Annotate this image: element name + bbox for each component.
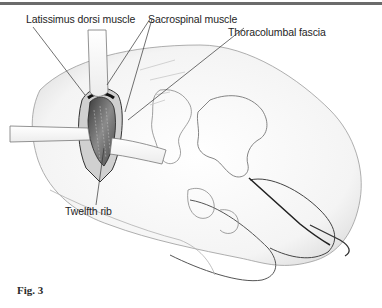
label-twelfth-rib: Twelfth rib xyxy=(65,205,112,217)
label-latissimus-dorsi-muscle: Latissimus dorsi muscle xyxy=(26,13,135,25)
label-sacrospinal-muscle: Sacrospinal muscle xyxy=(148,13,237,25)
figure-caption: Fig. 3 xyxy=(17,284,43,296)
body-outline xyxy=(32,45,361,281)
label-thoracolumbal-fascia: Thoracolumbal fascia xyxy=(228,26,326,38)
anatomical-illustration xyxy=(0,0,382,308)
